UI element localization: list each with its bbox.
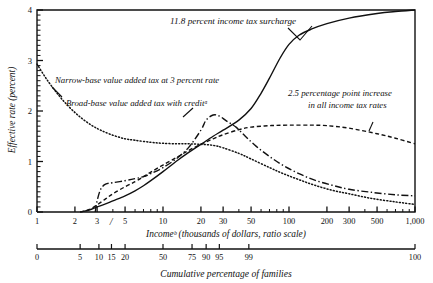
secondary-tick-label: 75 bbox=[188, 253, 196, 262]
secondary-axis-tick-labels: 051015205075909599100 bbox=[35, 253, 421, 262]
x-tick-label: 20 bbox=[197, 217, 205, 226]
leader-narrow-base bbox=[52, 87, 62, 97]
y-axis-title: Effective rate (percent) bbox=[7, 67, 18, 155]
x-tick-label: 10 bbox=[159, 217, 167, 226]
leader-narrow-base-b bbox=[40, 79, 50, 88]
y-tick-label: 4 bbox=[28, 5, 33, 15]
y-tick-label: 2 bbox=[28, 106, 32, 116]
x-tick-label: 500 bbox=[371, 217, 384, 226]
y-tick-label: 1 bbox=[28, 157, 32, 167]
secondary-tick-label: 50 bbox=[159, 253, 167, 262]
annotation-broad-base: Broad-base value added tax with creditᵃ bbox=[66, 98, 208, 108]
x-axis-title-secondary: Cumulative percentage of families bbox=[160, 268, 292, 279]
leader-rate-increase bbox=[369, 122, 373, 131]
secondary-tick-label: 100 bbox=[409, 253, 421, 262]
figure-container: 01234 1235102030501002003005001,000 / 05… bbox=[0, 0, 433, 283]
secondary-tick-label: 15 bbox=[107, 253, 115, 262]
axis-break-marker: / bbox=[109, 216, 114, 227]
secondary-tick-label: 10 bbox=[95, 253, 103, 262]
y-axis-tick-labels: 01234 bbox=[28, 5, 33, 217]
secondary-tick-label: 90 bbox=[202, 253, 210, 262]
leader-broad-base bbox=[183, 108, 193, 117]
y-tick-label: 3 bbox=[28, 56, 32, 66]
plot-frame bbox=[37, 10, 415, 212]
y-axis-ticks bbox=[37, 10, 43, 212]
annotation-narrow-base: Narrow-base value added tax at 3 percent… bbox=[54, 75, 219, 85]
x-tick-label: 5 bbox=[123, 217, 127, 226]
secondary-tick-label: 99 bbox=[245, 253, 253, 262]
secondary-axis-ticks bbox=[37, 244, 415, 249]
data-series-layer bbox=[37, 10, 415, 212]
leader-surcharge bbox=[288, 26, 312, 40]
secondary-tick-label: 5 bbox=[78, 253, 82, 262]
x-tick-label: 3 bbox=[95, 217, 99, 226]
x-tick-label: 30 bbox=[219, 217, 227, 226]
x-tick-label: 2 bbox=[73, 217, 77, 226]
x-tick-label: 50 bbox=[247, 217, 255, 226]
x-tick-label: 100 bbox=[283, 217, 296, 226]
series-line-0 bbox=[80, 10, 415, 212]
annotation-rate-increase-line2: in all income tax rates bbox=[308, 100, 387, 110]
x-tick-label: 1,000 bbox=[406, 217, 425, 226]
axis-break-slash: / bbox=[109, 216, 114, 227]
x-tick-label: 200 bbox=[321, 217, 334, 226]
chart-svg: 01234 1235102030501002003005001,000 / 05… bbox=[0, 0, 433, 283]
annotation-surcharge: 11.8 percent income tax surcharge bbox=[170, 16, 296, 26]
x-tick-label: 1 bbox=[35, 217, 39, 226]
x-axis-title-primary: Incomeᵇ (thousands of dollars, ratio sca… bbox=[145, 229, 306, 240]
y-tick-label: 0 bbox=[28, 207, 32, 217]
secondary-tick-label: 20 bbox=[121, 253, 129, 262]
x-tick-label: 300 bbox=[343, 217, 356, 226]
secondary-tick-label: 95 bbox=[215, 253, 223, 262]
annotation-rate-increase-line1: 2.5 percentage point increase bbox=[288, 88, 392, 98]
secondary-tick-label: 0 bbox=[35, 253, 39, 262]
x-axis-tick-labels: 1235102030501002003005001,000 bbox=[35, 217, 425, 226]
